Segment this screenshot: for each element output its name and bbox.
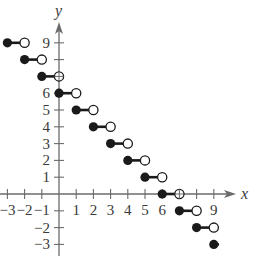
step-segment: [72, 105, 98, 114]
y-tick-label: −2: [34, 220, 50, 236]
x-tick-label: 3: [107, 202, 115, 218]
open-endpoint-icon: [158, 173, 167, 182]
x-tick-label: 9: [210, 202, 218, 218]
y-tick-label: 5: [43, 102, 51, 118]
step-function-plot: −3−2−112345699654321−2−3 x y: [0, 0, 269, 262]
x-tick-label: −3: [0, 202, 15, 218]
y-tick-label: 6: [43, 85, 51, 101]
step-segment: [89, 122, 115, 131]
step-segment: [123, 156, 149, 165]
closed-endpoint-icon: [209, 240, 218, 249]
closed-endpoint-icon: [3, 38, 12, 47]
step-segment: [192, 223, 218, 232]
step-segment: [106, 139, 132, 148]
y-tick-label: 1: [43, 169, 51, 185]
step-segment: [175, 206, 201, 215]
open-endpoint-icon: [20, 38, 29, 47]
y-tick-label: 2: [43, 152, 51, 168]
closed-endpoint-icon: [89, 122, 98, 131]
x-tick-label: −1: [34, 202, 50, 218]
closed-endpoint-icon: [37, 72, 46, 81]
open-endpoint-icon: [140, 156, 149, 165]
closed-endpoint-icon: [72, 105, 81, 114]
open-endpoint-icon: [106, 122, 115, 131]
x-tick-label: 5: [141, 202, 149, 218]
x-tick-label: 6: [158, 202, 166, 218]
step-segment: [54, 89, 80, 98]
step-segment: [158, 189, 184, 198]
x-tick-label: 4: [124, 202, 132, 218]
y-tick-label: 3: [43, 136, 51, 152]
closed-endpoint-icon: [54, 89, 63, 98]
closed-endpoint-icon: [175, 206, 184, 215]
closed-endpoint-icon: [20, 55, 29, 64]
closed-endpoint-icon: [140, 173, 149, 182]
x-axis-label: x: [240, 185, 248, 202]
y-tick-label: 4: [43, 119, 51, 135]
open-endpoint-icon: [209, 223, 218, 232]
open-endpoint-icon: [72, 89, 81, 98]
open-endpoint-icon: [192, 206, 201, 215]
closed-endpoint-icon: [123, 156, 132, 165]
x-tick-label: 1: [72, 202, 80, 218]
step-segment: [37, 72, 63, 81]
closed-endpoint-icon: [158, 189, 167, 198]
open-endpoint-icon: [89, 105, 98, 114]
step-segment: [20, 55, 46, 64]
closed-endpoint-icon: [106, 139, 115, 148]
x-tick-label: 2: [90, 202, 98, 218]
step-segment: [140, 173, 166, 182]
step-segment: [3, 38, 29, 47]
open-endpoint-icon: [37, 55, 46, 64]
step-segment: [209, 240, 219, 249]
y-tick-label: 9: [43, 35, 51, 51]
y-tick-label: −3: [34, 236, 50, 252]
closed-endpoint-icon: [192, 223, 201, 232]
y-axis-label: y: [53, 2, 63, 20]
open-endpoint-icon: [123, 139, 132, 148]
x-tick-label: −2: [17, 202, 33, 218]
